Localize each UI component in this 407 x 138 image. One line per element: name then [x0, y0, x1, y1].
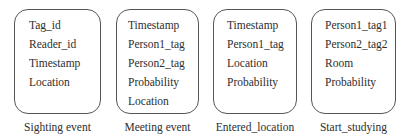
- field-person2-tag: Person2_tag: [128, 57, 185, 70]
- field-person1-tag: Person1_tag: [227, 38, 284, 51]
- field-location: Location: [128, 95, 169, 108]
- field-location: Location: [29, 76, 70, 89]
- caption-sighting-event: Sighting event: [14, 121, 101, 133]
- field-tag-id: Tag_id: [29, 19, 61, 32]
- caption-entered-location: Entered_location: [209, 121, 301, 133]
- field-person1-tag: Person1_tag: [128, 38, 185, 51]
- field-probability: Probability: [128, 76, 179, 89]
- field-timestamp: Timestamp: [128, 19, 179, 32]
- field-timestamp: Timestamp: [227, 19, 278, 32]
- field-person1-tag1: Person1_tag1: [325, 19, 388, 32]
- field-room: Room: [325, 57, 353, 70]
- field-probability: Probability: [325, 76, 376, 89]
- field-person2-tag2: Person2_tag2: [325, 38, 388, 51]
- caption-start-studying: Start_studying: [311, 121, 396, 133]
- field-timestamp: Timestamp: [29, 57, 80, 70]
- field-probability: Probability: [227, 76, 278, 89]
- field-reader-id: Reader_id: [29, 38, 76, 51]
- field-location: Location: [227, 57, 268, 70]
- caption-meeting-event: Meeting event: [116, 121, 199, 133]
